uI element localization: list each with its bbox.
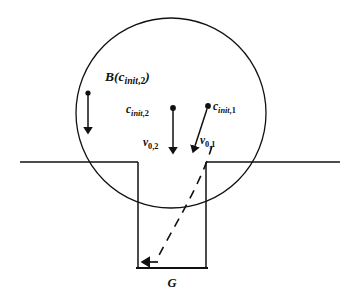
groove-label: G	[167, 276, 176, 290]
ball-circle	[76, 18, 266, 208]
velocity-2-label: v0,2	[143, 136, 158, 151]
center-point-1	[205, 103, 211, 109]
trajectory-dashed-path	[156, 146, 212, 261]
diagram-canvas: B(cinit,2) cinit,2 cinit,1 v0,2 v0,1 G	[0, 0, 352, 302]
figure-root: B(cinit,2) cinit,2 cinit,1 v0,2 v0,1 G	[0, 0, 352, 302]
velocity-1-label: v0,1	[200, 134, 215, 149]
center-1-label: cinit,1	[213, 100, 236, 115]
radius-arrow-dot	[85, 90, 90, 95]
center-2-label: cinit,2	[126, 103, 149, 118]
ball-region-label: B(cinit,2)	[104, 69, 150, 86]
